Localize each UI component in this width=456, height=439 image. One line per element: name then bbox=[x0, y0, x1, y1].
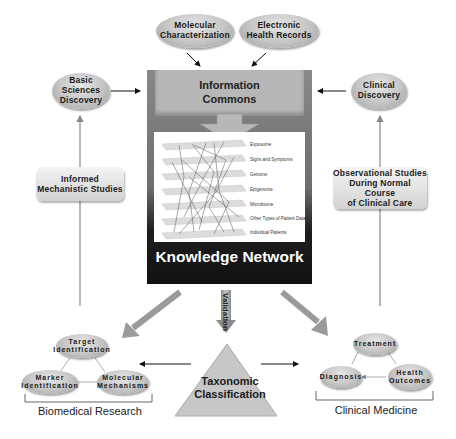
label: Mechanisms bbox=[97, 382, 149, 390]
knowledge-network-title: Knowledge Network bbox=[147, 248, 312, 266]
label: Taxonomic bbox=[180, 375, 280, 388]
label: Identification bbox=[21, 382, 79, 390]
node-basic-sciences-discovery: Basic SciencesDiscovery bbox=[52, 73, 110, 109]
label: Information bbox=[199, 79, 260, 93]
node-target-identification: TargetIdentification bbox=[56, 334, 108, 358]
node-electronic-health-records: ElectronicHealth Records bbox=[239, 14, 319, 48]
label: Identification bbox=[53, 346, 111, 354]
box-observational-studies: Observational StudiesDuring Normal Cours… bbox=[333, 167, 427, 209]
label: of Clinical Care bbox=[333, 198, 427, 208]
node-health-outcomes: HealthOutcomes bbox=[388, 364, 432, 390]
arrow-ehr-to-commons bbox=[252, 53, 266, 66]
label: During Normal Course bbox=[333, 178, 427, 198]
fat-arrow-to-clinical bbox=[282, 292, 328, 336]
label: Characterization bbox=[160, 31, 230, 41]
layer-network-graphic bbox=[154, 132, 305, 242]
node-clinical-discovery: ClinicalDiscovery bbox=[351, 73, 407, 109]
label: Commons bbox=[199, 93, 260, 107]
biomedical-bracket bbox=[25, 394, 152, 402]
label: Health bbox=[389, 369, 431, 377]
information-commons: InformationCommons bbox=[155, 70, 304, 116]
knowledge-network-box: InformationCommons Exposome S bbox=[147, 70, 312, 284]
node-diagnosis: Diagnosis bbox=[320, 366, 362, 388]
label: Basic Sciences bbox=[52, 76, 110, 96]
layer-label: Signs and Symptoms bbox=[250, 157, 293, 162]
layer-label: Microbiome bbox=[250, 202, 273, 207]
layer-label: Genome bbox=[250, 172, 267, 177]
node-molecular-characterization: MolecularCharacterization bbox=[156, 14, 234, 48]
fat-arrow-to-biomedical bbox=[122, 292, 180, 338]
box-informed-mechanistic-studies: InformedMechanistic Studies bbox=[36, 167, 124, 201]
label: Discovery bbox=[52, 96, 110, 106]
layer-label: Exposome bbox=[250, 142, 271, 147]
label: Health Records bbox=[246, 31, 311, 41]
clinical-medicine-title: Clinical Medicine bbox=[318, 404, 434, 416]
node-molecular-mechanisms: MolecularMechanisms bbox=[97, 370, 149, 394]
clinical-bracket bbox=[316, 391, 433, 400]
label: Observational Studies bbox=[333, 168, 427, 178]
layer-label: Epigenome bbox=[250, 187, 273, 192]
node-marker-identification: MarkerIdentification bbox=[22, 370, 78, 394]
label: Outcomes bbox=[389, 377, 431, 385]
label: Diagnosis bbox=[320, 373, 362, 381]
label: Mechanistic Studies bbox=[37, 184, 123, 194]
label: Molecular bbox=[97, 374, 149, 382]
biomedical-research-title: Biomedical Research bbox=[30, 405, 150, 417]
validation-label: Validation bbox=[221, 293, 230, 331]
node-treatment: Treatment bbox=[353, 333, 397, 355]
label: Marker bbox=[21, 374, 79, 382]
label: Treatment bbox=[354, 340, 396, 348]
taxonomic-classification-label: Taxonomic Classification bbox=[180, 375, 280, 401]
label: Informed bbox=[37, 174, 123, 184]
label: Classification bbox=[180, 388, 280, 401]
network-layers-panel: Exposome Signs and Symptoms Genome Epige… bbox=[154, 132, 305, 242]
label: Discovery bbox=[358, 91, 400, 101]
arrow-molecular-to-commons bbox=[187, 53, 200, 66]
layer-label: Other Types of Patient Data bbox=[250, 216, 305, 221]
layer-label: Individual Patients bbox=[250, 230, 287, 235]
label: Target bbox=[53, 338, 111, 346]
